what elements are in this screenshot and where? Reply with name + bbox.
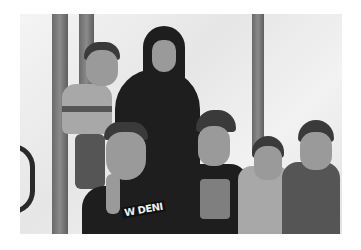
photograph: W DENI bbox=[20, 14, 342, 234]
front-boy-thumb bbox=[106, 174, 120, 214]
center-boy-shirt-graphic bbox=[200, 179, 230, 219]
far-right-boy-face bbox=[300, 132, 332, 170]
toddler-face bbox=[86, 50, 118, 86]
toddler-shirt-stripe bbox=[62, 106, 112, 112]
toddler-legs bbox=[75, 134, 105, 189]
woman-face bbox=[152, 40, 176, 72]
far-right-boy-shirt bbox=[282, 162, 340, 234]
front-boy-face bbox=[106, 132, 146, 180]
center-boy-face bbox=[198, 126, 230, 166]
right-boy-face bbox=[254, 146, 282, 180]
tarp-stripe-3 bbox=[252, 14, 264, 154]
